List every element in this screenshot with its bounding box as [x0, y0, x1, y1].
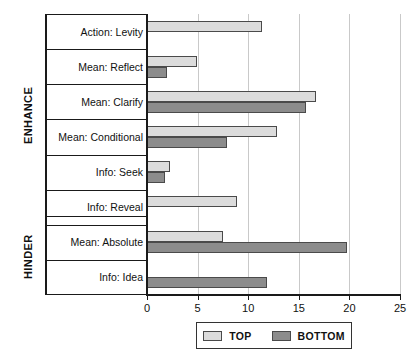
x-tick-25 — [400, 295, 401, 300]
bar-mean-clarify-bottom — [147, 102, 306, 113]
category-separator-7 — [46, 260, 146, 261]
legend-item-bottom: BOTTOM — [272, 330, 345, 342]
x-axis-line — [146, 294, 401, 296]
bar-mean-reflect-bottom — [147, 67, 167, 78]
legend-label-bottom: BOTTOM — [298, 330, 345, 342]
bar-chart: ENHANCE HINDER Action: LevityMean: Refle… — [0, 0, 419, 362]
x-tick-20 — [349, 295, 350, 300]
x-tick-label-25: 25 — [394, 302, 406, 314]
legend-swatch-bottom-icon — [272, 331, 291, 341]
category-separator-5 — [46, 190, 146, 191]
plot-area — [147, 14, 400, 295]
gridline-25 — [400, 14, 401, 295]
gridline-20 — [349, 14, 350, 295]
bar-info-seek-bottom — [147, 172, 165, 183]
x-tick-0 — [147, 295, 148, 300]
bar-info-seek-top — [147, 161, 170, 172]
category-label-mean-reflect: Mean: Reflect — [78, 62, 143, 73]
group-label-hinder: HINDER — [22, 218, 40, 295]
bar-mean-conditional-top — [147, 126, 277, 137]
group-label-enhance: ENHANCE — [22, 14, 40, 216]
bar-mean-conditional-bottom — [147, 137, 227, 148]
legend-item-top: TOP — [203, 330, 251, 342]
category-label-info-idea: Info: Idea — [99, 272, 143, 283]
category-separator-2 — [46, 84, 146, 85]
category-label-mean-absolute: Mean: Absolute — [71, 237, 143, 248]
category-label-mean-clarify: Mean: Clarify — [81, 97, 143, 108]
bar-info-idea-bottom — [147, 277, 267, 288]
x-tick-5 — [198, 295, 199, 300]
x-tick-label-15: 15 — [293, 302, 305, 314]
bar-action-levity-top — [147, 21, 262, 32]
category-separator-1 — [46, 49, 146, 50]
category-separator-3 — [46, 119, 146, 120]
legend-label-top: TOP — [229, 330, 251, 342]
bar-mean-reflect-top — [147, 56, 197, 67]
x-tick-label-5: 5 — [195, 302, 201, 314]
legend-swatch-top-icon — [203, 331, 222, 341]
category-label-info-seek: Info: Seek — [96, 167, 143, 178]
bar-mean-clarify-top — [147, 91, 316, 102]
group-separator-middle — [45, 216, 146, 217]
x-tick-label-0: 0 — [144, 302, 150, 314]
y-axis-line — [146, 14, 148, 296]
x-tick-label-20: 20 — [343, 302, 355, 314]
x-tick-15 — [299, 295, 300, 300]
x-tick-label-10: 10 — [242, 302, 254, 314]
group-separator-bottom — [45, 294, 146, 295]
bar-info-reveal-top — [147, 196, 237, 207]
category-label-info-reveal: Info: Reveal — [87, 202, 143, 213]
category-label-mean-conditional: Mean: Conditional — [58, 132, 143, 143]
category-separator-4 — [46, 155, 146, 156]
bar-mean-absolute-top — [147, 231, 223, 242]
x-tick-10 — [248, 295, 249, 300]
legend: TOP BOTTOM — [196, 322, 352, 349]
bar-mean-absolute-bottom — [147, 242, 347, 253]
category-label-action-levity: Action: Levity — [81, 27, 143, 38]
category-separator-6 — [46, 225, 146, 226]
group-separator-top — [45, 14, 146, 15]
